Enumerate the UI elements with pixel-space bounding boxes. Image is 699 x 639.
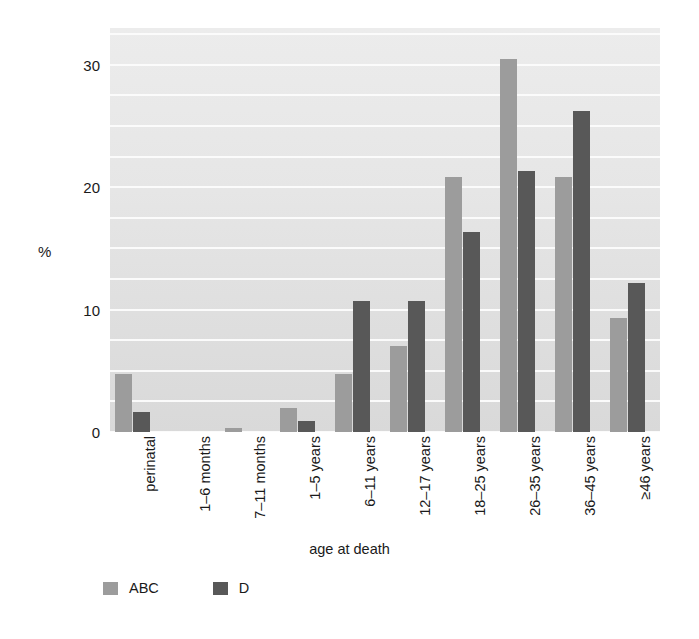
bar-group: [115, 28, 150, 432]
bar-series-container: [110, 28, 660, 432]
legend-label: ABC: [129, 580, 159, 596]
bar-abc: [280, 408, 297, 432]
bar-abc: [390, 346, 407, 432]
bar-abc: [335, 374, 352, 432]
bar-chart-figure: 0102030 % perinatal1–6 months7–11 months…: [0, 0, 699, 639]
bar-group: [555, 28, 590, 432]
bar-d: [353, 301, 370, 432]
legend-item: D: [213, 580, 249, 596]
x-axis-ticks: perinatal1–6 months7–11 months1–5 years6…: [110, 436, 660, 536]
x-tick-label: 1–6 months: [197, 436, 213, 540]
bar-d: [298, 421, 315, 432]
legend-item: ABC: [103, 580, 159, 596]
y-tick-label: 30: [60, 56, 100, 73]
bar-d: [408, 301, 425, 432]
x-tick-label: ≥46 years: [637, 436, 653, 540]
y-tick-label: 20: [60, 179, 100, 196]
y-axis-ticks: 0102030: [56, 28, 100, 432]
bar-d: [573, 111, 590, 432]
bar-group: [445, 28, 480, 432]
legend-swatch: [103, 582, 118, 595]
y-tick-label: 10: [60, 301, 100, 318]
x-tick-label: 7–11 months: [252, 436, 268, 540]
x-tick-label: perinatal: [142, 436, 158, 540]
y-axis-label: %: [38, 243, 51, 260]
bar-group: [610, 28, 645, 432]
bar-group: [225, 28, 260, 432]
bar-abc: [555, 177, 572, 432]
x-tick-label: 1–5 years: [307, 436, 323, 540]
legend-swatch: [213, 582, 228, 595]
bar-d: [518, 171, 535, 432]
x-tick-label: 36–45 years: [582, 436, 598, 540]
bar-group: [280, 28, 315, 432]
bar-d: [628, 283, 645, 432]
bar-group: [170, 28, 205, 432]
bar-d: [133, 412, 150, 432]
bar-abc: [500, 59, 517, 432]
bar-abc: [225, 428, 242, 432]
x-tick-label: 12–17 years: [417, 436, 433, 540]
x-axis-label: age at death: [0, 541, 699, 557]
bar-d: [463, 232, 480, 432]
bar-group: [500, 28, 535, 432]
bar-abc: [115, 374, 132, 432]
x-tick-label: 6–11 years: [362, 436, 378, 540]
legend-label: D: [239, 580, 249, 596]
bar-group: [390, 28, 425, 432]
chart-legend: ABCD: [103, 580, 249, 596]
bar-abc: [445, 177, 462, 432]
x-tick-label: 26–35 years: [527, 436, 543, 540]
x-tick-label: 18–25 years: [472, 436, 488, 540]
bar-group: [335, 28, 370, 432]
plot-area: [110, 28, 660, 432]
y-tick-label: 0: [60, 424, 100, 441]
bar-abc: [610, 318, 627, 432]
